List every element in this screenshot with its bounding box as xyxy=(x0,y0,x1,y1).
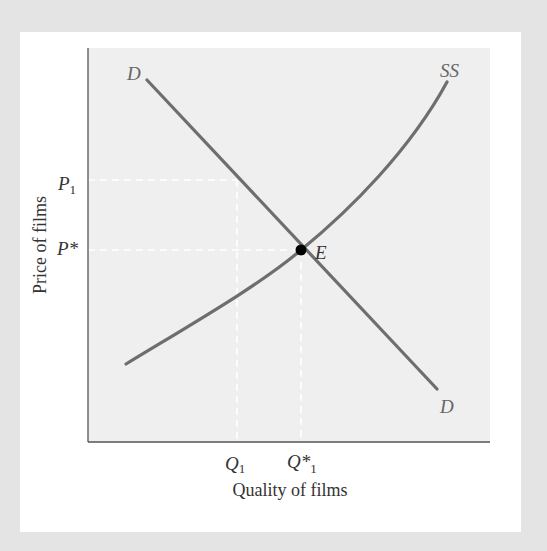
demand-label-top: D xyxy=(126,63,141,84)
demand-label-bottom: D xyxy=(439,396,454,417)
x-tick-qstar: Q*1 xyxy=(287,451,317,476)
supply-demand-chart: D D SS E P1 P* Q1 Q*1 Quality of films P… xyxy=(0,0,547,551)
supply-label: SS xyxy=(440,60,460,81)
y-tick-pstar: P* xyxy=(56,238,79,259)
equilibrium-label: E xyxy=(314,242,327,263)
x-tick-q1: Q1 xyxy=(225,453,245,476)
y-axis-title: Price of films xyxy=(30,196,50,294)
x-axis-title: Quality of films xyxy=(233,480,348,500)
y-tick-p1: P1 xyxy=(57,173,76,197)
equilibrium-point xyxy=(296,245,307,256)
